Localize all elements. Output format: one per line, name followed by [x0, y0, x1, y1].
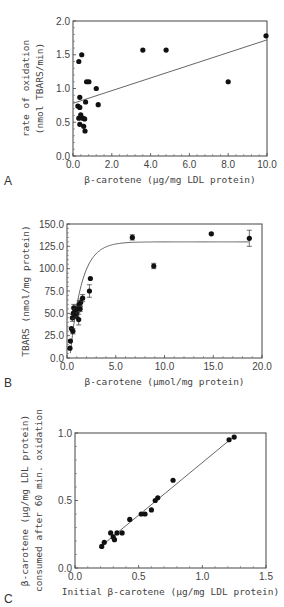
x-tick-label: 10.0 [257, 159, 277, 170]
data-point [155, 495, 160, 500]
x-tick-label: 15.0 [204, 361, 224, 372]
x-tick-label: 10.0 [155, 361, 175, 372]
chart-panel-a: 0.02.04.06.08.010.00.00.51.01.52.0β-caro… [4, 16, 277, 189]
data-point [151, 263, 156, 268]
data-point [102, 540, 107, 545]
y-tick-label: 0.0 [50, 353, 64, 364]
panel-label: B [4, 376, 12, 390]
y-axis-label-line1: rate of oxidation [20, 40, 31, 137]
y-tick-label: 0.5 [56, 117, 70, 128]
plot-frame [67, 224, 262, 358]
x-tick-label: 1.0 [195, 571, 209, 582]
data-point [86, 79, 91, 84]
x-tick-label: 20.0 [252, 361, 272, 372]
data-point [88, 276, 93, 281]
data-point [68, 338, 73, 343]
y-tick-label: 1.5 [56, 49, 70, 60]
data-point [120, 530, 125, 535]
data-point [112, 537, 117, 542]
panel-label: A [4, 174, 12, 188]
data-point [130, 235, 135, 240]
chart-panel-c: 0.00.51.01.50.00.51.0Initial β-carotene … [4, 409, 279, 606]
x-tick-label: 5.0 [109, 361, 123, 372]
data-point [70, 329, 75, 334]
y-tick-label: 0.0 [58, 563, 72, 574]
data-point [80, 296, 85, 301]
data-point [263, 33, 268, 38]
x-axis-label: β-carotene (µmol/mg protein) [84, 376, 244, 387]
x-tick-label: 1.5 [259, 571, 273, 582]
x-tick-label: 8.0 [221, 159, 235, 170]
y-tick-label: 75.0 [45, 286, 65, 297]
data-point [170, 478, 175, 483]
y-tick-label: 125.0 [39, 241, 64, 252]
x-tick-label: 0.5 [132, 571, 146, 582]
y-tick-label: 2.0 [56, 16, 70, 27]
data-point [83, 99, 88, 104]
y-tick-label: 1.0 [58, 428, 72, 439]
data-point [232, 434, 237, 439]
data-point [77, 105, 82, 110]
data-point [67, 346, 72, 351]
data-point [127, 517, 132, 522]
data-point [76, 59, 81, 64]
plot-frame [73, 21, 267, 156]
data-point [226, 437, 231, 442]
data-point [77, 95, 82, 100]
y-tick-label: 50.0 [45, 308, 65, 319]
data-point [87, 288, 92, 293]
data-point [140, 47, 145, 52]
data-point [81, 124, 86, 129]
y-tick-label: 1.0 [56, 83, 70, 94]
y-tick-label: 0.5 [58, 495, 72, 506]
data-point [79, 52, 84, 57]
figure: 0.02.04.06.08.010.00.00.51.01.52.0β-caro… [0, 0, 284, 607]
y-tick-label: 0.0 [56, 151, 70, 162]
data-point [94, 86, 99, 91]
data-point [114, 530, 119, 535]
x-tick-label: 4.0 [144, 159, 158, 170]
data-point [82, 116, 87, 121]
regression-line [73, 40, 267, 103]
data-point [142, 511, 147, 516]
data-point [82, 128, 87, 133]
data-point [164, 47, 169, 52]
y-tick-label: 100.0 [39, 263, 64, 274]
x-axis-label: Initial β-carotene (µg/mg LDL protein) [62, 586, 279, 597]
panel-label: C [4, 592, 13, 606]
data-point [78, 306, 83, 311]
data-point [209, 231, 214, 236]
data-point [247, 236, 252, 241]
data-point [149, 507, 154, 512]
x-tick-label: 6.0 [182, 159, 196, 170]
chart-panel-b: 0.05.010.015.020.00.025.050.075.0100.012… [4, 219, 272, 391]
x-tick-label: 2.0 [105, 159, 119, 170]
y-tick-label: 150.0 [39, 219, 64, 230]
y-axis-label-line2: consumed after 60 min. oxidation [33, 409, 44, 592]
fit-curve [70, 242, 248, 353]
y-tick-label: 25.0 [45, 330, 65, 341]
y-axis-label-line1: β-carotene (µg/mg LDL protein) [19, 415, 30, 587]
data-point [76, 317, 81, 322]
data-point [96, 102, 101, 107]
y-axis-label-line2: (nmol TBARS/min) [34, 43, 45, 135]
x-axis-label: β-carotene (µg/mg LDL protein) [84, 174, 256, 185]
data-point [226, 79, 231, 84]
y-axis-label: TBARS (nmol/mg protein) [20, 225, 31, 357]
